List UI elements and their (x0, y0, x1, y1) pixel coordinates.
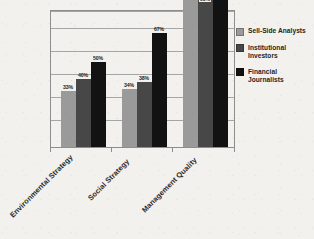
bar-wrap: 67% (152, 11, 167, 147)
legend-item-financial-journalists[interactable]: Financial Journalists (236, 68, 314, 84)
bar-institutional-investors[interactable]: 90% (198, 0, 213, 147)
x-axis-label-management-quality: Management Quality (140, 156, 199, 215)
bar-value-label: 90% (199, 0, 211, 2)
bar-value-label: 38% (139, 76, 149, 81)
legend-swatch-icon (236, 68, 244, 76)
legend-label-line1: Sell-Side Analysts (248, 27, 306, 34)
x-tick (234, 148, 235, 152)
bar-value-label: 67% (154, 27, 164, 32)
bar-wrap: 34% (122, 11, 137, 147)
bar-value-label: 40% (78, 73, 88, 78)
bar-financial-journalists[interactable]: 50% (91, 62, 106, 147)
chart-legend: Sell-Side Analysts Institutional Investo… (236, 27, 314, 92)
x-tick (172, 148, 173, 152)
bar-value-label: 50% (93, 56, 103, 61)
bar-institutional-investors[interactable]: 40% (76, 79, 91, 147)
legend-swatch-icon (236, 28, 244, 36)
x-axis-label-environmental-strategy: Environmental Strategy (8, 153, 75, 220)
bar-wrap: 100% (183, 11, 198, 147)
bar-wrap: 40% (76, 11, 91, 147)
bar-sell-side-analysts[interactable]: 34% (122, 89, 137, 147)
legend-item-sell-side-analysts[interactable]: Sell-Side Analysts (236, 27, 314, 36)
bar-institutional-investors[interactable]: 38% (137, 82, 152, 147)
bar-group-social-strategy: 34% 38% 67% (118, 11, 170, 147)
bar-wrap: 50% (91, 11, 106, 147)
bar-group-environmental-strategy: 33% 40% 50% (57, 11, 109, 147)
legend-label-line2: Investors (248, 52, 278, 59)
legend-item-institutional-investors[interactable]: Institutional Investors (236, 44, 314, 60)
bar-wrap: 33% (61, 11, 76, 147)
legend-label-line2: Journalists (248, 76, 284, 83)
legend-label-line1: Financial (248, 68, 277, 75)
legend-label: Institutional Investors (248, 44, 286, 60)
plot-area: 33% 40% 50% 34% (50, 10, 235, 148)
bar-wrap: 38% (137, 11, 152, 147)
legend-label: Sell-Side Analysts (248, 27, 306, 35)
bar-financial-journalists[interactable]: 67% (152, 33, 167, 147)
legend-label-line1: Institutional (248, 44, 286, 51)
chart-figure: 33% 40% 50% 34% (0, 0, 314, 239)
bar-sell-side-analysts[interactable]: 33% (61, 91, 76, 147)
x-tick (50, 148, 51, 152)
x-axis-label-social-strategy: Social Strategy (86, 157, 131, 202)
bar-value-label: 34% (124, 83, 134, 88)
bar-financial-journalists[interactable]: 100% (213, 0, 228, 147)
bar-wrap: 100% (213, 11, 228, 147)
bar-value-label: 33% (63, 85, 73, 90)
legend-swatch-icon (236, 44, 244, 52)
bar-wrap: 90% (198, 11, 213, 147)
bar-group-management-quality: 100% 90% 100% (179, 11, 231, 147)
bar-sell-side-analysts[interactable]: 100% (183, 0, 198, 147)
x-tick (111, 148, 112, 152)
legend-label: Financial Journalists (248, 68, 284, 84)
